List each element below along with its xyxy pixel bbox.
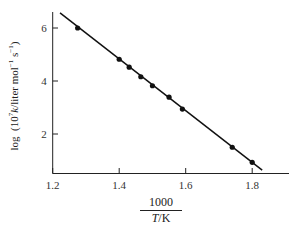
axes xyxy=(53,12,289,174)
data-point xyxy=(75,25,80,30)
data-point xyxy=(127,65,132,70)
data-point xyxy=(117,57,122,62)
y-tick-label: 2 xyxy=(41,128,47,140)
y-ticks: 246 xyxy=(41,22,58,140)
x-axis-label: 1000 T/K xyxy=(140,196,182,225)
data-point xyxy=(250,160,255,165)
data-point xyxy=(166,95,171,100)
x-tick-label: 1.6 xyxy=(179,179,193,191)
y-axis-label: log (107k/liter mol−1 s−1) xyxy=(7,21,23,171)
y-tick-label: 4 xyxy=(41,75,47,87)
x-label-numerator: 1000 xyxy=(140,196,182,211)
x-tick-label: 1.2 xyxy=(46,179,60,191)
data-point xyxy=(150,83,155,88)
data-point xyxy=(180,106,185,111)
y-tick-label: 6 xyxy=(41,22,47,34)
data-point xyxy=(138,74,143,79)
data-point xyxy=(230,145,235,150)
x-tick-label: 1.4 xyxy=(112,179,126,191)
x-label-denominator: T/K xyxy=(140,211,182,225)
x-tick-label: 1.8 xyxy=(245,179,259,191)
x-ticks: 1.21.41.61.8 xyxy=(46,168,260,191)
